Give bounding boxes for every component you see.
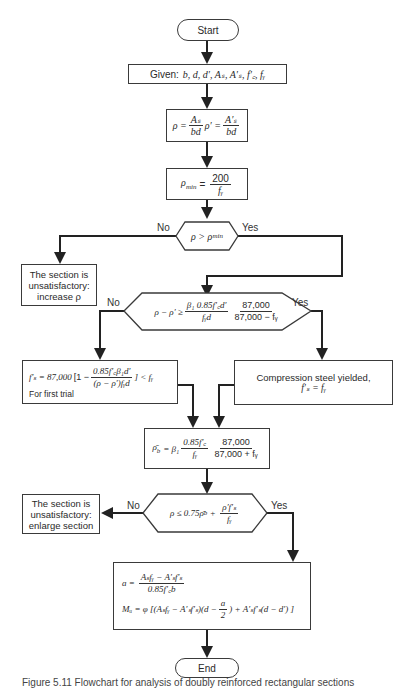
fail2-line1: The section is — [32, 498, 91, 509]
rho-min-lhs: ρmin — [181, 177, 196, 191]
yielded-line1: Compression steel yielded, — [256, 372, 370, 383]
decision2-yes-label: Yes — [292, 297, 308, 308]
fs-trial-note: For first trial — [29, 389, 74, 399]
given-box: Given: b, d, d′, Aₛ, A′ₛ, f′꜀, fᵧ — [128, 64, 287, 84]
rho-prime-label: ρ′ = — [205, 120, 221, 131]
fs-trial-equation: f′ₛ = 87,000 [1 − 0.85f′꜀β₁d′ (ρ − ρ′)fᵧ… — [29, 366, 153, 389]
rho-b-fraction1: 0.85f′꜀ fᵧ — [181, 437, 208, 460]
rho-min-denominator: fᵧ — [216, 185, 225, 196]
figure-caption: Figure 5.11 Flowchart for analysis of do… — [22, 677, 354, 688]
moment-capacity-box: a = Aₛfᵧ − A′ₛf′ₛ 0.85f′꜀b Mᵤ = φ [(Aₛfᵧ… — [113, 562, 311, 630]
decision2-fraction2: 87,000 87,000 − fᵧ — [232, 300, 279, 323]
rho-min-fraction: 200 fᵧ — [210, 173, 231, 196]
start-terminal: Start — [177, 19, 239, 41]
balanced-ratio-box: ρ̄b = β₁ 0.85f′꜀ fᵧ 87,000 87,000 + fᵧ — [144, 428, 270, 469]
given-vars: b, d, d′, Aₛ, A′ₛ, f′꜀, fᵧ — [183, 67, 265, 81]
rho-label: ρ = — [173, 120, 187, 131]
decision3-no-label: No — [127, 500, 140, 511]
fs-trial-fraction: 0.85f′꜀β₁d′ (ρ − ρ′)fᵧd — [91, 366, 132, 389]
depth-a-equation: a = Aₛfᵧ − A′ₛf′ₛ 0.85f′꜀b — [122, 572, 186, 595]
rho-prime-denominator: bd — [224, 126, 238, 137]
fs-trial-box: f′ₛ = 87,000 [1 − 0.85f′꜀β₁d′ (ρ − ρ′)fᵧ… — [22, 360, 178, 404]
fail2-line2: unsatisfactory: — [30, 509, 91, 520]
yielded-line2: f′ₛ = fᵧ — [301, 383, 326, 394]
rho-b-lhs: ρ̄b — [152, 442, 160, 455]
rho-b-fraction2: 87,000 87,000 + fᵧ — [212, 437, 259, 460]
decision2-no-label: No — [107, 297, 120, 308]
decision1-yes-label: Yes — [242, 222, 258, 233]
rho-min-numerator: 200 — [210, 173, 231, 185]
rho-fraction: Aₛ bd — [189, 114, 203, 137]
rho-prime-fraction: A′ₛ bd — [223, 114, 239, 137]
given-label: Given: — [150, 69, 179, 80]
fail2-line3: enlarge section — [29, 520, 93, 531]
rho-numerator: Aₛ — [189, 114, 203, 126]
depth-a-fraction: Aₛfᵧ − A′ₛf′ₛ 0.85f′꜀b — [139, 572, 185, 595]
fail-increase-rho-box: The section is unsatisfactory: increase … — [21, 264, 97, 306]
moment-equation: Mᵤ = φ [(Aₛfᵧ − A′ₛf′ₛ)(d − a 2 ) + A′ₛf… — [122, 598, 294, 621]
moment-half-a-fraction: a 2 — [219, 598, 228, 621]
reinforcement-ratio-box: ρ = Aₛ bd ρ′ = A′ₛ bd — [166, 109, 248, 142]
start-label: Start — [197, 25, 218, 36]
decision3-fraction: ρ′f′ₛ fᵧ — [220, 502, 238, 525]
decision2-lhs: ρ − ρ′ ≥ — [154, 307, 182, 317]
fail1-line3: increase ρ — [37, 291, 81, 302]
rho-b-eq: = β₁ — [163, 444, 179, 454]
rho-prime-numerator: A′ₛ — [223, 114, 239, 126]
end-terminal: End — [175, 658, 239, 678]
decision2-fraction1: β₁ 0.85f′꜀d′ fᵧd — [185, 300, 229, 323]
decision-compression-yield: ρ − ρ′ ≥ β₁ 0.85f′꜀d′ fᵧd 87,000 87,000 … — [132, 293, 304, 330]
decision3-yes-label: Yes — [271, 500, 287, 511]
rho-denominator: bd — [189, 126, 203, 137]
decision-balanced: ρ ≤ 0.75ρ̄b + ρ′f′ₛ fᵧ — [150, 494, 260, 532]
decision1-no-label: No — [157, 222, 170, 233]
compression-steel-yielded-box: Compression steel yielded, f′ₛ = fᵧ — [234, 360, 393, 405]
decision-rho-min: ρ > ρmin — [176, 222, 238, 250]
end-label: End — [198, 663, 216, 674]
rho-min-eq: = — [199, 179, 205, 190]
fail-enlarge-section-box: The section is unsatisfactory: enlarge s… — [22, 494, 100, 534]
fail1-line2: unsatisfactory: — [28, 280, 89, 291]
fail1-line1: The section is — [30, 269, 89, 280]
rho-min-box: ρmin = 200 fᵧ — [166, 168, 248, 200]
